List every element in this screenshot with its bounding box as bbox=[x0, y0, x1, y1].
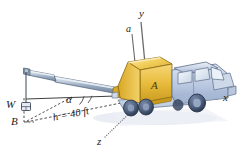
ground-shadow bbox=[93, 108, 228, 126]
acceleration-label: a bbox=[126, 24, 131, 34]
axis-label-z: z bbox=[97, 136, 101, 147]
weight-block bbox=[22, 103, 31, 111]
wheel bbox=[173, 100, 183, 111]
angle-label-alpha: α bbox=[66, 94, 72, 105]
point-label-B: B bbox=[11, 116, 18, 127]
boom-rest bbox=[112, 92, 118, 98]
mechanics-diagram: y x z a A B W α h = 40 ft bbox=[0, 0, 240, 155]
point-label-A: A bbox=[151, 80, 158, 91]
diagram-canvas bbox=[0, 0, 240, 155]
wheel bbox=[189, 94, 206, 112]
axis-label-x: x bbox=[223, 92, 228, 103]
wheel bbox=[139, 99, 154, 115]
weight-label-W: W bbox=[6, 99, 15, 110]
wheel bbox=[124, 100, 139, 116]
axis-label-y: y bbox=[139, 8, 144, 19]
